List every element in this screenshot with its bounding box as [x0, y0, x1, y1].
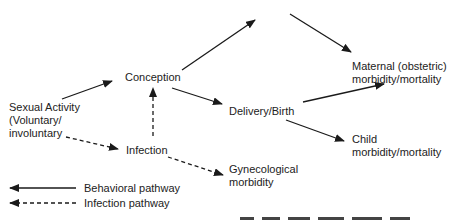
- edge-delivery-to-maternal: [303, 84, 384, 102]
- node-conception: Conception: [125, 71, 181, 84]
- legend-behavioral-label: Behavioral pathway: [84, 182, 180, 195]
- node-delivery-birth: Delivery/Birth: [229, 105, 294, 118]
- edge-conception-to-top: [182, 20, 255, 70]
- node-gynecological-morbidity: Gynecological morbidity: [229, 163, 298, 189]
- node-maternal-morbidity: Maternal (obstetric) morbidity/mortality: [352, 60, 447, 86]
- edge-sexual-to-conception: [62, 81, 112, 99]
- node-infection: Infection: [126, 144, 168, 157]
- edge-infection-to-gynecological: [168, 157, 223, 175]
- node-child-morbidity: Child morbidity/mortality: [352, 133, 441, 159]
- edge-conception-to-delivery: [172, 88, 222, 104]
- legend-infection-label: Infection pathway: [84, 197, 170, 210]
- edge-top-to-maternal: [290, 14, 351, 52]
- edge-delivery-to-child: [286, 120, 344, 141]
- clipped-caption-text: [240, 214, 452, 222]
- node-sexual-activity: Sexual Activity (Voluntary/ involuntary: [9, 101, 80, 140]
